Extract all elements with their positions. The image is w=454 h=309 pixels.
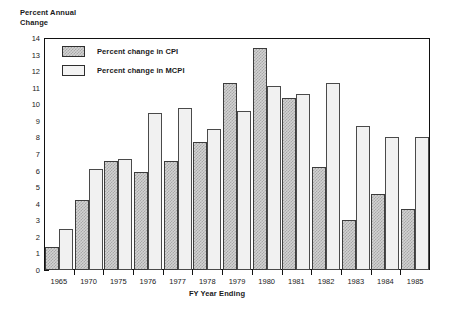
x-axis-label: 1981 (288, 277, 305, 286)
bar-mcpi (267, 86, 281, 270)
y-axis-label: 10 (32, 100, 40, 109)
bar-mcpi (118, 159, 132, 270)
bar-mcpi (385, 137, 399, 270)
legend-item: Percent change in CPI (62, 46, 185, 57)
y-axis-label: 14 (32, 34, 40, 43)
bar-cpi (342, 220, 356, 270)
x-axis-tick (371, 270, 372, 275)
x-axis-label: 1985 (407, 277, 424, 286)
y-axis-label: 13 (32, 50, 40, 59)
y-axis-label: 9 (36, 116, 40, 125)
bar-cpi (253, 48, 267, 270)
x-axis-title-text: FY Year Ending (189, 289, 245, 298)
y-axis-label: 12 (32, 67, 40, 76)
x-axis-label: 1965 (51, 277, 68, 286)
x-axis-tick (311, 270, 312, 275)
x-axis-label: 1982 (318, 277, 335, 286)
y-axis-title: Percent Annual Change (20, 8, 76, 27)
bar-group (222, 38, 252, 270)
bar-mcpi (178, 108, 192, 270)
bar-group (400, 38, 430, 270)
bar-mcpi (326, 83, 340, 270)
y-axis-label: 4 (36, 199, 40, 208)
x-axis-tick (74, 270, 75, 275)
bar-cpi (223, 83, 237, 270)
x-axis-tick (163, 270, 164, 275)
y-axis-label: 5 (36, 183, 40, 192)
bar-mcpi (356, 126, 370, 270)
y-axis-label: 6 (36, 166, 40, 175)
y-axis-label: 11 (32, 83, 40, 92)
bar-cpi (282, 98, 296, 270)
x-axis-tick (282, 270, 283, 275)
bar-group (252, 38, 282, 270)
chart-legend: Percent change in CPIPercent change in M… (62, 46, 185, 84)
y-axis-label: 3 (36, 216, 40, 225)
bar-cpi (312, 167, 326, 270)
bar-mcpi (59, 229, 73, 270)
bar-group (311, 38, 341, 270)
x-axis-tick (400, 270, 401, 275)
bar-group (371, 38, 401, 270)
bar-cpi (104, 161, 118, 270)
y-axis-tick (44, 270, 49, 271)
bar-cpi (75, 200, 89, 270)
x-axis-tick (341, 270, 342, 275)
legend-swatch-cpi (62, 46, 85, 57)
bar-mcpi (296, 94, 310, 270)
x-axis-label: 1984 (377, 277, 394, 286)
x-axis-tick (222, 270, 223, 275)
bar-cpi (134, 172, 148, 270)
bar-mcpi (89, 169, 103, 270)
x-axis-label: 1978 (199, 277, 216, 286)
bar-cpi (401, 209, 415, 270)
y-axis-label: 2 (36, 232, 40, 241)
y-axis-label: 8 (36, 133, 40, 142)
legend-item: Percent change in MCPI (62, 65, 185, 76)
bar-group (282, 38, 312, 270)
x-axis-tick (133, 270, 134, 275)
x-axis-label: 1976 (140, 277, 157, 286)
x-axis-tick (252, 270, 253, 275)
bar-cpi (45, 247, 59, 270)
x-axis-label: 1970 (80, 277, 97, 286)
y-axis-label: 1 (36, 249, 40, 258)
bar-mcpi (237, 111, 251, 270)
bar-group (192, 38, 222, 270)
y-axis-label: 7 (36, 150, 40, 159)
x-axis-label: 1983 (347, 277, 364, 286)
legend-label: Percent change in CPI (97, 47, 178, 56)
x-axis-tick (103, 270, 104, 275)
bar-mcpi (415, 137, 429, 270)
x-axis-title: FY Year Ending (0, 289, 454, 298)
bar-cpi (164, 161, 178, 270)
x-axis-label: 1979 (229, 277, 246, 286)
bar-group (341, 38, 371, 270)
x-axis-label: 1980 (258, 277, 275, 286)
legend-swatch-mcpi (62, 65, 85, 76)
bar-cpi (193, 142, 207, 270)
x-axis-label: 1975 (110, 277, 127, 286)
bar-chart: Percent Annual Change 012345678910111213… (0, 0, 454, 309)
y-axis-label: 0 (36, 266, 40, 275)
bar-cpi (371, 194, 385, 270)
bar-mcpi (207, 129, 221, 270)
legend-label: Percent change in MCPI (97, 66, 185, 75)
x-axis-tick (192, 270, 193, 275)
y-axis-tick-labels: 01234567891011121314 (18, 38, 40, 270)
bar-mcpi (148, 113, 162, 270)
x-axis-label: 1977 (169, 277, 186, 286)
